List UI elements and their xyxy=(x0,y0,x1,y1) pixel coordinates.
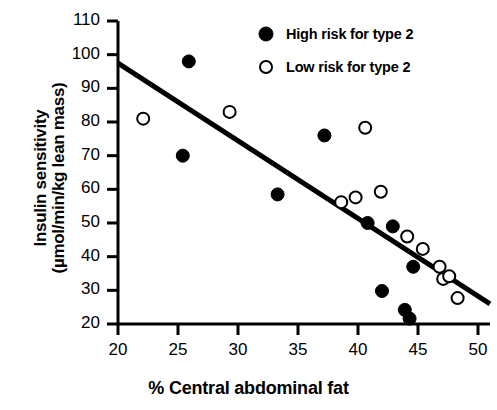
y-tick-label-70: 70 xyxy=(60,145,100,165)
legend-marker-low-risk xyxy=(260,61,272,73)
point-low-risk-7 xyxy=(417,243,429,255)
x-tick-label-30: 30 xyxy=(218,340,258,360)
point-low-risk-6 xyxy=(401,230,413,242)
scatter-plot-figure: Insulin sensitivity (µmol/min/kg lean ma… xyxy=(0,0,497,410)
y-axis-ticks xyxy=(107,21,118,324)
legend-markers xyxy=(259,27,273,73)
legend-label-high-risk: High risk for type 2 xyxy=(286,26,413,42)
x-tick-label-50: 50 xyxy=(458,340,497,360)
point-high-risk-6 xyxy=(407,260,420,273)
point-low-risk-1 xyxy=(224,106,236,118)
y-tick-label-60: 60 xyxy=(60,178,100,198)
point-low-risk-2 xyxy=(359,122,371,134)
point-high-risk-4 xyxy=(361,217,374,230)
y-tick-label-20: 20 xyxy=(60,313,100,333)
y-tick-label-110: 110 xyxy=(60,10,100,30)
y-tick-label-40: 40 xyxy=(60,246,100,266)
point-high-risk-5 xyxy=(386,220,399,233)
x-tick-label-20: 20 xyxy=(98,340,138,360)
legend-label-low-risk: Low risk for type 2 xyxy=(286,59,410,75)
x-tick-label-35: 35 xyxy=(278,340,318,360)
y-tick-label-100: 100 xyxy=(60,44,100,64)
point-low-risk-11 xyxy=(452,292,464,304)
point-low-risk-0 xyxy=(137,113,149,125)
point-low-risk-5 xyxy=(375,186,387,198)
point-low-risk-3 xyxy=(335,196,347,208)
point-low-risk-8 xyxy=(434,261,446,273)
x-axis-ticks xyxy=(118,324,478,335)
y-tick-label-30: 30 xyxy=(60,279,100,299)
legend-marker-high-risk xyxy=(259,27,273,41)
point-low-risk-10 xyxy=(443,270,455,282)
y-tick-label-90: 90 xyxy=(60,77,100,97)
point-high-risk-1 xyxy=(176,149,189,162)
y-tick-label-50: 50 xyxy=(60,212,100,232)
point-high-risk-7 xyxy=(376,285,389,298)
point-high-risk-3 xyxy=(271,188,284,201)
point-high-risk-2 xyxy=(318,129,331,142)
y-tick-label-80: 80 xyxy=(60,111,100,131)
x-tick-label-45: 45 xyxy=(398,340,438,360)
point-high-risk-9 xyxy=(403,312,416,325)
series-low-risk-points xyxy=(137,106,463,304)
point-high-risk-0 xyxy=(182,55,195,68)
x-tick-label-25: 25 xyxy=(158,340,198,360)
point-low-risk-4 xyxy=(350,191,362,203)
x-tick-label-40: 40 xyxy=(338,340,378,360)
